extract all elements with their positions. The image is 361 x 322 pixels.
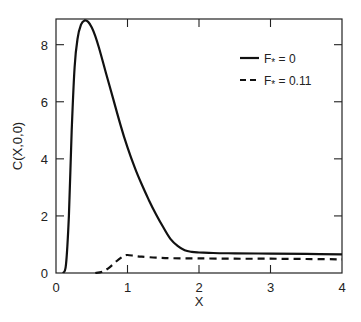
y-axis-label: C(X,0,0)	[10, 122, 25, 170]
chart: 0123402468 X C(X,0,0) F* = 0F* = 0.11	[0, 0, 361, 322]
y-tick-label: 8	[41, 38, 48, 53]
plot-frame	[56, 19, 342, 273]
y-tick-label: 4	[41, 152, 48, 167]
y-tick-label: 0	[41, 266, 48, 281]
data-series	[63, 20, 342, 273]
x-axis-label: X	[195, 294, 204, 309]
legend-label: F* = 0.11	[264, 74, 312, 90]
series-line-f0	[63, 20, 342, 273]
x-tick-label: 2	[195, 280, 202, 295]
legend: F* = 0F* = 0.11	[240, 52, 312, 90]
x-tick-label: 3	[267, 280, 274, 295]
series-line-f011	[95, 255, 342, 273]
x-tick-label: 0	[52, 280, 59, 295]
axis-ticks	[56, 19, 342, 273]
y-tick-label: 6	[41, 95, 48, 110]
legend-label: F* = 0	[264, 52, 296, 68]
x-tick-label: 4	[338, 280, 345, 295]
x-tick-label: 1	[124, 280, 131, 295]
y-tick-label: 2	[41, 209, 48, 224]
